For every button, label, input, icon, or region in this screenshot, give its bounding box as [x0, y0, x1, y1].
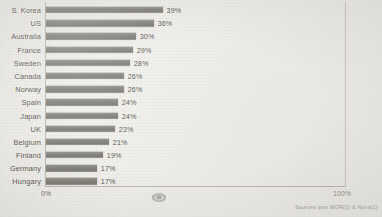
bar-value-label: 19% [107, 151, 122, 160]
bar-category-label: Australia [0, 32, 41, 41]
bar-value-label: 17% [101, 164, 116, 173]
bar-category-label: Spain [0, 98, 41, 107]
bar [46, 112, 118, 118]
bar [46, 152, 103, 158]
bar-value-label: 30% [140, 32, 155, 41]
bar-row: Germany17% [0, 162, 382, 175]
bar [46, 33, 136, 39]
bar-value-label: 21% [113, 137, 128, 146]
bar [46, 46, 133, 52]
bar-row: Hungary17% [0, 175, 382, 188]
bar-row: UK23% [0, 122, 382, 135]
bar-row: S. Korea39% [0, 4, 382, 17]
bar-category-label: Hungary [0, 177, 41, 186]
axis-tick-min: 0% [41, 190, 51, 197]
bar [46, 20, 154, 26]
bar [46, 99, 118, 105]
axis-tick-max: 100% [333, 190, 351, 197]
bar-category-label: Finland [0, 151, 41, 160]
bar-category-label: Japan [0, 111, 41, 120]
bar-value-label: 24% [122, 98, 137, 107]
bar [46, 178, 97, 184]
bar [46, 73, 124, 79]
bar-value-label: 39% [167, 6, 182, 15]
bar [46, 126, 115, 132]
bar-category-label: S. Korea [0, 6, 41, 15]
bar-category-label: France [0, 45, 41, 54]
bar-row: Belgium21% [0, 135, 382, 148]
bar [46, 60, 130, 66]
bar-value-label: 29% [137, 45, 152, 54]
bar-category-label: UK [0, 124, 41, 133]
bar-value-label: 26% [128, 85, 143, 94]
bar-row: France29% [0, 43, 382, 56]
bar-category-label: Germany [0, 164, 41, 173]
bar-value-label: 28% [134, 58, 149, 67]
bar-category-label: US [0, 19, 41, 28]
bar-row: Finland19% [0, 148, 382, 161]
bar-value-label: 26% [128, 71, 143, 80]
oval-logo-watermark-icon [148, 191, 170, 204]
bar-row: Australia30% [0, 30, 382, 43]
bar-row: Canada26% [0, 69, 382, 82]
bar-category-label: Norway [0, 85, 41, 94]
bar [46, 7, 163, 13]
bar-row: Norway26% [0, 83, 382, 96]
bar-value-label: 36% [158, 19, 173, 28]
bar-category-label: Sweden [0, 58, 41, 67]
bar-value-label: 17% [101, 177, 116, 186]
bar-row: US36% [0, 17, 382, 30]
bar-chart: S. Korea39%US36%Australia30%France29%Swe… [0, 0, 382, 217]
bar [46, 86, 124, 92]
bar-category-label: Canada [0, 71, 41, 80]
bar-value-label: 23% [119, 124, 134, 133]
bar-row: Sweden28% [0, 56, 382, 69]
bar-category-label: Belgium [0, 137, 41, 146]
source-attribution: Sources ipsx MOR(1) & Nova(1) [295, 204, 378, 210]
bar-row: Japan24% [0, 109, 382, 122]
bar [46, 165, 97, 171]
bar-row: Spain24% [0, 96, 382, 109]
bar-value-label: 24% [122, 111, 137, 120]
bar [46, 139, 109, 145]
